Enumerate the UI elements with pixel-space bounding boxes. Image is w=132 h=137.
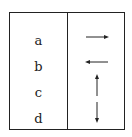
label-a: a [10,34,67,48]
up-arrow-icon [95,74,99,96]
diagram-table: a b c d [9,12,125,130]
label-c: c [10,86,67,100]
arrows-column [68,13,124,129]
right-arrow-icon [86,35,109,39]
left-arrow-icon [85,60,108,64]
down-arrow-icon [95,102,99,123]
label-d: d [10,112,67,126]
label-b: b [10,60,67,74]
